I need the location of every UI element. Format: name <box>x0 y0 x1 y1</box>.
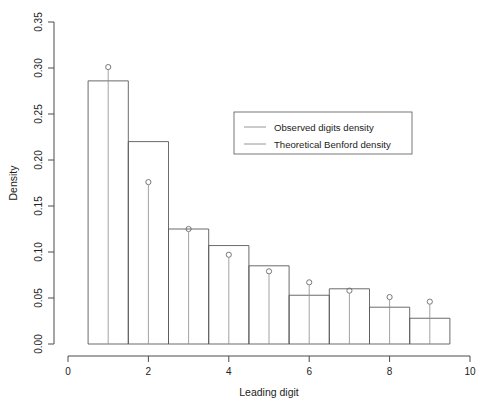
y-tick-label: 0.30 <box>33 58 44 78</box>
chart-canvas: 0.000.050.100.150.200.250.300.35Density0… <box>0 0 501 405</box>
theoretical-point <box>427 299 432 304</box>
x-axis <box>68 356 470 362</box>
y-tick-label: 0.00 <box>33 334 44 354</box>
x-tick-label: 10 <box>464 366 476 377</box>
x-tick-label: 0 <box>65 366 71 377</box>
y-tick-label: 0.20 <box>33 150 44 170</box>
y-tick-label: 0.35 <box>33 12 44 32</box>
theoretical-point <box>226 252 231 257</box>
x-tick-label: 6 <box>306 366 312 377</box>
theoretical-point <box>146 179 151 184</box>
x-axis-label: Leading digit <box>239 386 299 398</box>
legend-label: Observed digits density <box>274 122 374 133</box>
theoretical-point <box>266 269 271 274</box>
theoretical-stems-group <box>106 64 433 344</box>
y-axis <box>48 22 54 344</box>
theoretical-point <box>307 280 312 285</box>
y-axis-label: Density <box>7 165 19 201</box>
x-tick-label: 4 <box>226 366 232 377</box>
theoretical-point <box>387 294 392 299</box>
legend-label: Theoretical Benford density <box>274 139 391 150</box>
theoretical-point <box>106 64 111 69</box>
x-tick-label: 8 <box>387 366 393 377</box>
y-tick-label: 0.05 <box>33 288 44 308</box>
y-tick-label: 0.15 <box>33 196 44 216</box>
y-tick-label: 0.25 <box>33 104 44 124</box>
y-tick-label: 0.10 <box>33 242 44 262</box>
x-tick-label: 2 <box>146 366 152 377</box>
benford-density-chart: 0.000.050.100.150.200.250.300.35Density0… <box>0 0 501 405</box>
